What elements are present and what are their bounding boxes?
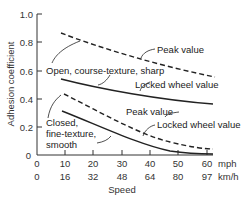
svg-text:30: 30 xyxy=(117,158,128,169)
annotation-closed-2: fine-texture, xyxy=(46,128,96,139)
annotation-locked-lower: Locked wheel value xyxy=(157,119,240,130)
x-axis-title: Speed xyxy=(108,184,135,195)
svg-text:40: 40 xyxy=(145,158,156,169)
svg-text:mph: mph xyxy=(218,158,236,169)
svg-text:0: 0 xyxy=(26,150,31,161)
svg-text:km/h: km/h xyxy=(218,171,239,182)
svg-text:97: 97 xyxy=(202,171,213,182)
annotation-closed-3: smooth xyxy=(46,139,77,150)
annotation-closed-1: Closed, xyxy=(46,117,78,128)
svg-text:0: 0 xyxy=(34,171,39,182)
y-ticks xyxy=(37,14,42,127)
svg-text:0.8: 0.8 xyxy=(20,37,33,48)
svg-text:20: 20 xyxy=(88,158,99,169)
svg-text:1.0: 1.0 xyxy=(20,9,33,20)
x-tick-labels-mph: 0 10 20 30 40 50 60 mph xyxy=(34,158,236,169)
svg-text:60: 60 xyxy=(202,158,213,169)
y-tick-labels: 1.0 0.8 0.6 0.4 0.2 0 xyxy=(20,9,33,161)
annotation-locked-upper: Locked wheel value xyxy=(135,79,218,90)
adhesion-chart: 1.0 0.8 0.6 0.4 0.2 0 0 10 20 30 40 50 6… xyxy=(0,0,248,199)
x-tick-labels-kmh: 0 16 32 48 64 80 97 km/h xyxy=(34,171,238,182)
svg-text:0: 0 xyxy=(34,158,39,169)
svg-text:10: 10 xyxy=(60,158,71,169)
svg-text:16: 16 xyxy=(60,171,71,182)
svg-text:50: 50 xyxy=(173,158,184,169)
y-axis-title: Adhesion coefficient xyxy=(5,41,16,126)
annotation-peak-upper: Peak value xyxy=(157,44,204,55)
svg-text:0.4: 0.4 xyxy=(20,94,33,105)
svg-text:64: 64 xyxy=(145,171,156,182)
annotation-open-surface: Open, course-texture, sharp xyxy=(46,65,164,76)
svg-text:32: 32 xyxy=(88,171,99,182)
annotation-peak-lower: Peak value xyxy=(126,106,173,117)
svg-text:0.6: 0.6 xyxy=(20,66,33,77)
svg-text:80: 80 xyxy=(173,171,184,182)
svg-text:48: 48 xyxy=(117,171,128,182)
svg-text:0.2: 0.2 xyxy=(20,122,33,133)
